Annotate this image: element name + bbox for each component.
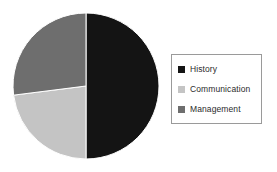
pie-slice-management[interactable] — [13, 13, 86, 95]
legend-swatch-history-icon — [178, 66, 185, 73]
pie-slice-communication[interactable] — [14, 86, 86, 159]
legend-swatch-communication-icon — [178, 86, 185, 93]
legend-label-management: Management — [190, 105, 241, 114]
legend-item-history[interactable]: History — [178, 62, 261, 76]
legend-item-management[interactable]: Management — [178, 102, 261, 116]
pie-chart-figure: History Communication Management — [0, 0, 277, 172]
legend-item-communication[interactable]: Communication — [178, 82, 261, 96]
legend-label-history: History — [190, 65, 217, 74]
legend-swatch-management-icon — [178, 106, 185, 113]
legend-label-communication: Communication — [190, 85, 250, 94]
chart-legend: History Communication Management — [171, 54, 262, 124]
pie-slices — [13, 13, 159, 159]
pie-slice-history[interactable] — [86, 13, 159, 159]
